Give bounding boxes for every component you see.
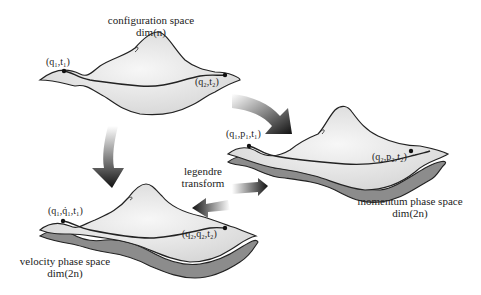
configuration-space-surface	[40, 32, 240, 115]
legendre-transform-line2: transform	[168, 177, 238, 189]
configuration-space-title: configuration space	[96, 14, 206, 26]
momentum-start-point-label: (q₁,p₁,t₁)	[226, 128, 261, 139]
configuration-space-dim: dim(n)	[96, 26, 206, 38]
configuration-start-point-label: (q₁,t₁)	[46, 56, 70, 67]
momentum-end-point-label: (q₂,p₂,t₂)	[372, 151, 407, 162]
configuration-end-point-label: (q₂,t₂)	[195, 76, 219, 87]
velocity-space-dim: dim(2n)	[10, 267, 120, 279]
velocity-start-point-label: (q₁,q̇₁,t₁)	[48, 205, 83, 216]
velocity-end-point-label: (q₂,q̇₂,t₂)	[182, 228, 217, 239]
arrow-config-to-velocity	[92, 126, 124, 188]
diagram-canvas	[0, 0, 481, 295]
legendre-transform-line1: legendre	[168, 165, 238, 177]
momentum-space-dim: dim(2n)	[350, 207, 470, 219]
velocity-space-title: velocity phase space	[10, 255, 120, 267]
momentum-space-title: momentum phase space	[350, 195, 470, 207]
